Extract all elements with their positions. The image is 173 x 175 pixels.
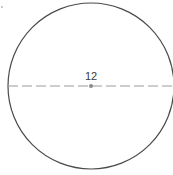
center-point <box>89 84 93 88</box>
background <box>0 0 173 175</box>
stray-mark <box>1 6 3 8</box>
diameter-label: 12 <box>85 70 97 82</box>
circle-diagram: 12 <box>0 0 173 175</box>
